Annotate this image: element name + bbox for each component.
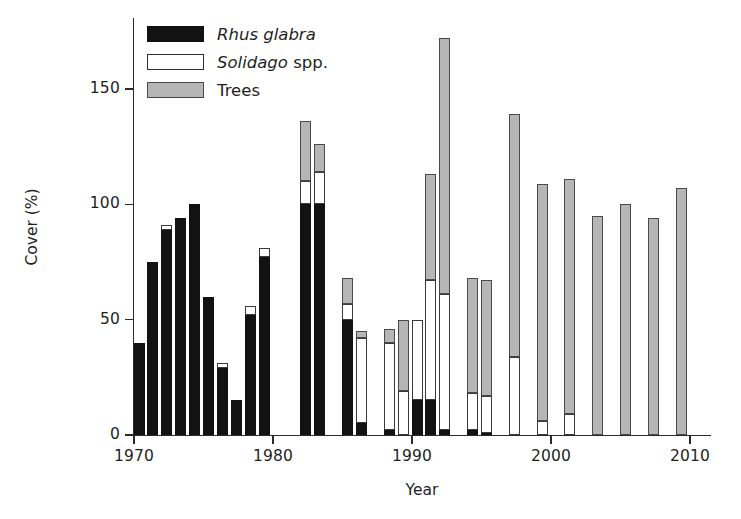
bar-2009 (676, 188, 687, 435)
y-tick-label-50: 50 (76, 310, 120, 328)
bar-segment-rhus-1976 (217, 368, 228, 435)
bar-segment-rhus-1992 (439, 430, 450, 435)
bar-segment-rhus-1985 (342, 320, 353, 435)
y-tick-label-wrap: 100 (72, 194, 120, 195)
bar-1972 (161, 225, 172, 435)
bar-1971 (147, 262, 158, 435)
bar-segment-trees-1994 (467, 278, 478, 393)
bar-1970 (134, 343, 145, 435)
bar-segment-rhus-1986 (356, 423, 367, 435)
bar-segment-solidago-1979 (259, 248, 270, 257)
legend-label-trees: Trees (217, 81, 260, 100)
y-tick-150 (125, 88, 133, 89)
legend-item-trees: Trees (147, 78, 387, 102)
legend-label-plain-solidago: spp. (288, 53, 328, 72)
bar-segment-solidago-1997 (509, 357, 520, 435)
bar-segment-rhus-1991 (425, 400, 436, 435)
bar-segment-rhus-1978 (245, 315, 256, 435)
legend-label-italic-solidago: Solidago (217, 53, 288, 72)
bar-segment-trees-2007 (648, 218, 659, 435)
bar-2007 (648, 218, 659, 435)
bar-segment-solidago-1995 (481, 396, 492, 433)
bar-segment-trees-1983 (314, 144, 325, 172)
legend-swatch-rhus (147, 26, 204, 42)
bar-segment-rhus-1972 (161, 230, 172, 435)
bar-segment-trees-1997 (509, 114, 520, 356)
bar-segment-solidago-2001 (564, 414, 575, 435)
bar-segment-solidago-1999 (537, 421, 548, 435)
bar-segment-rhus-1988 (384, 430, 395, 435)
bar-segment-solidago-1991 (425, 280, 436, 400)
bar-1978 (245, 306, 256, 435)
y-tick-50 (125, 319, 133, 320)
x-tick-2000 (550, 436, 551, 444)
legend-swatch-trees (147, 82, 204, 98)
bar-segment-solidago-1989 (398, 391, 409, 435)
x-axis-line (133, 435, 711, 436)
bar-segment-solidago-1994 (467, 393, 478, 430)
bar-1977 (231, 400, 242, 435)
bar-segment-rhus-1995 (481, 433, 492, 435)
bar-segment-solidago-1972 (161, 225, 172, 230)
bar-1974 (189, 204, 200, 435)
bar-1985 (342, 278, 353, 435)
bar-1997 (509, 114, 520, 435)
bar-segment-solidago-1985 (342, 304, 353, 320)
x-tick-label-1990: 1990 (377, 447, 447, 465)
bar-segment-trees-1999 (537, 184, 548, 422)
bar-segment-rhus-1982 (300, 204, 311, 435)
legend: Rhus glabraSolidago spp.Trees (147, 22, 387, 106)
bar-segment-trees-2009 (676, 188, 687, 435)
y-tick-label-wrap: 150 (72, 79, 120, 80)
y-tick-label-wrap: 0 (72, 425, 120, 426)
bar-2003 (592, 216, 603, 435)
bar-1989 (398, 320, 409, 435)
bar-1988 (384, 329, 395, 435)
bar-segment-trees-2005 (620, 204, 631, 435)
bar-segment-rhus-1979 (259, 257, 270, 435)
bar-segment-solidago-1986 (356, 338, 367, 423)
bar-segment-trees-2001 (564, 179, 575, 414)
bar-segment-solidago-1990 (412, 320, 423, 401)
y-tick-label-wrap: 50 (72, 310, 120, 311)
y-axis-label: Cover (%) (23, 157, 41, 297)
x-axis-label: Year (133, 481, 711, 499)
y-tick-label-0: 0 (76, 425, 120, 443)
bar-1992 (439, 38, 450, 435)
x-tick-2010 (689, 436, 690, 444)
bar-segment-solidago-1982 (300, 181, 311, 204)
bar-segment-rhus-1971 (147, 262, 158, 435)
bar-2001 (564, 114, 575, 435)
legend-swatch-solidago (147, 54, 204, 70)
legend-label-italic-rhus: Rhus glabra (217, 25, 316, 44)
legend-item-rhus: Rhus glabra (147, 22, 387, 46)
bar-segment-trees-1995 (481, 280, 492, 395)
bar-segment-rhus-1990 (412, 400, 423, 435)
x-tick-1980 (272, 436, 273, 444)
bar-segment-trees-1982 (300, 121, 311, 181)
legend-label-rhus: Rhus glabra (217, 25, 316, 44)
bar-1995 (481, 280, 492, 435)
bar-1976 (217, 363, 228, 435)
x-tick-1970 (133, 436, 134, 444)
bar-segment-rhus-1975 (203, 297, 214, 435)
bar-segment-rhus-1974 (189, 204, 200, 435)
chart-figure: 050100150 19701980199020002010 Cover (%)… (0, 0, 741, 519)
bar-1999 (537, 114, 548, 435)
legend-label-solidago: Solidago spp. (217, 53, 328, 72)
bar-segment-solidago-1978 (245, 306, 256, 315)
bar-segment-solidago-1976 (217, 363, 228, 368)
bar-segment-rhus-1994 (467, 430, 478, 435)
bar-segment-solidago-1988 (384, 343, 395, 431)
bar-segment-solidago-1992 (439, 294, 450, 430)
y-tick-label-100: 100 (76, 194, 120, 212)
bar-segment-rhus-1983 (314, 204, 325, 435)
bar-1991 (425, 174, 436, 435)
bar-2005 (620, 204, 631, 435)
legend-item-solidago: Solidago spp. (147, 50, 387, 74)
x-tick-label-2010: 2010 (655, 447, 725, 465)
bar-1983 (314, 144, 325, 435)
bar-1973 (175, 218, 186, 435)
bar-segment-rhus-1973 (175, 218, 186, 435)
bar-segment-rhus-1977 (231, 400, 242, 435)
